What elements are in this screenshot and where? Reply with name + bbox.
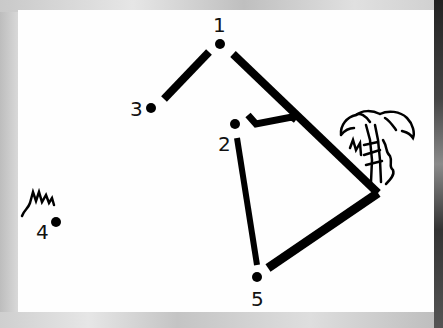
line-1-3 (164, 52, 209, 99)
dot-4[interactable] (51, 217, 61, 227)
drawing-canvas (0, 0, 443, 328)
line-2-5 (237, 138, 257, 265)
line-2-branch (248, 115, 296, 124)
dot-1[interactable] (215, 39, 225, 49)
grass-tuft-icon (22, 192, 54, 216)
dot-3[interactable] (146, 103, 156, 113)
dot-2[interactable] (230, 119, 240, 129)
dot-label-4: 4 (36, 222, 49, 242)
dot-label-2: 2 (218, 134, 231, 154)
line-corner-5 (268, 193, 378, 268)
dot-label-1: 1 (213, 15, 226, 35)
dot-label-3: 3 (130, 99, 143, 119)
dot-5[interactable] (252, 272, 262, 282)
dot-label-5: 5 (251, 289, 264, 309)
